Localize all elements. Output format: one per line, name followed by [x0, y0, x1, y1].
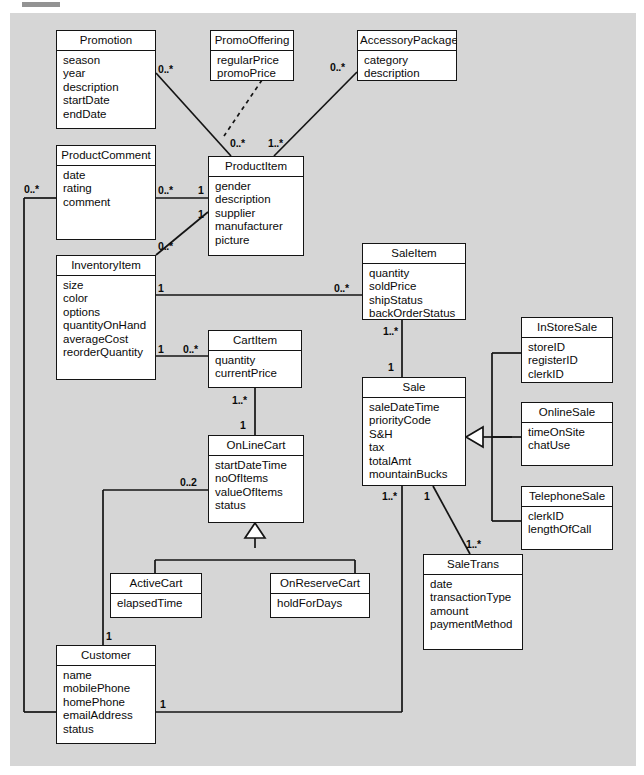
attribute: paymentMethod	[430, 618, 522, 631]
attribute: reorderQuantity	[63, 346, 155, 359]
multiplicity-customer-onlinecart: 1	[106, 630, 112, 642]
class-promotion-title: Promotion	[57, 31, 155, 51]
class-accessorypackage-attributes: category description	[358, 51, 456, 84]
attribute: season	[63, 54, 155, 67]
multiplicity-saleitem-sale: 1..*	[383, 325, 398, 337]
attribute: year	[63, 67, 155, 80]
attribute: tax	[369, 441, 465, 454]
attribute: transactionType	[430, 591, 522, 604]
attribute: mobilePhone	[63, 682, 155, 695]
class-saletrans-title: SaleTrans	[424, 555, 522, 575]
attribute: date	[430, 578, 522, 591]
attribute: gender	[215, 180, 303, 193]
attribute: mountainBucks	[369, 468, 465, 481]
attribute: currentPrice	[215, 367, 301, 380]
class-cartitem[interactable]: CartItem quantity currentPrice	[208, 330, 302, 388]
class-sale-title: Sale	[363, 378, 465, 398]
attribute: rating	[63, 182, 155, 195]
attribute: chatUse	[528, 439, 612, 452]
multiplicity-productitem-productcomment: 1	[198, 184, 204, 196]
attribute: status	[63, 723, 155, 736]
class-telephonesale-title: TelephoneSale	[522, 487, 612, 507]
class-accessorypackage[interactable]: AccessoryPackage category description	[357, 30, 457, 81]
multiplicity-saletrans-sale: 1..*	[466, 538, 481, 550]
attribute: clerkID	[528, 368, 612, 381]
class-productcomment[interactable]: ProductComment date rating comment	[56, 145, 156, 240]
multiplicity-cartitem-inventoryitem: 0..*	[183, 343, 198, 355]
class-promooffering[interactable]: PromoOffering regularPrice promoPrice	[210, 30, 294, 81]
class-telephonesale-attributes: clerkID lengthOfCall	[522, 507, 612, 540]
class-customer-title: Customer	[57, 646, 155, 666]
class-productcomment-title: ProductComment	[57, 146, 155, 166]
attribute: picture	[215, 234, 303, 247]
attribute: lengthOfCall	[528, 523, 612, 536]
class-sale[interactable]: Sale saleDateTime priorityCode S&H tax t…	[362, 377, 466, 486]
class-inventoryitem[interactable]: InventoryItem size color options quantit…	[56, 255, 156, 380]
multiplicity-sale-saletrans: 1	[424, 490, 430, 502]
multiplicity-inventoryitem-saleitem: 1	[158, 282, 164, 294]
multiplicity-sale-customer: 1..*	[382, 490, 397, 502]
attribute: homePhone	[63, 696, 155, 709]
multiplicity-onlinecart-cartitem: 1	[240, 419, 246, 431]
attribute: timeOnSite	[528, 426, 612, 439]
class-saletrans[interactable]: SaleTrans date transactionType amount pa…	[423, 554, 523, 650]
attribute: amount	[430, 605, 522, 618]
attribute: date	[63, 169, 155, 182]
attribute: totalAmt	[369, 455, 465, 468]
class-onlinecart-attributes: startDateTime noOfItems valueOfItems sta…	[209, 456, 303, 516]
class-inventoryitem-title: InventoryItem	[57, 256, 155, 276]
class-accessorypackage-title: AccessoryPackage	[358, 31, 456, 51]
attribute: clerkID	[528, 510, 612, 523]
class-promotion[interactable]: Promotion season year description startD…	[56, 30, 156, 129]
multiplicity-productitem-accessorypackage: 1..*	[268, 137, 283, 149]
multiplicity-sale-saleitem: 1	[388, 361, 394, 373]
attribute: storeID	[528, 341, 612, 354]
class-productitem[interactable]: ProductItem gender description supplier …	[208, 156, 304, 256]
attribute: size	[63, 279, 155, 292]
class-saleitem-title: SaleItem	[363, 244, 465, 264]
class-promotion-attributes: season year description startDate endDat…	[57, 51, 155, 124]
class-promooffering-attributes: regularPrice promoPrice	[211, 51, 293, 84]
class-saleitem[interactable]: SaleItem quantity soldPrice shipStatus b…	[362, 243, 466, 320]
attribute: quantity	[215, 354, 301, 367]
class-instoresale[interactable]: InStoreSale storeID registerID clerkID	[521, 317, 613, 383]
multiplicity-promotion-productitem: 0..*	[158, 63, 173, 75]
class-activecart-title: ActiveCart	[111, 574, 201, 594]
attribute: priorityCode	[369, 414, 465, 427]
attribute: valueOfItems	[215, 486, 303, 499]
class-productitem-title: ProductItem	[209, 157, 303, 177]
attribute: regularPrice	[217, 54, 293, 67]
class-onlinesale-attributes: timeOnSite chatUse	[522, 423, 612, 456]
multiplicity-productcomment-productitem: 0..*	[158, 184, 173, 196]
class-onreservecart[interactable]: OnReserveCart holdForDays	[270, 573, 370, 618]
attribute: backOrderStatus	[369, 307, 465, 320]
attribute: description	[364, 67, 456, 80]
class-productitem-attributes: gender description supplier manufacturer…	[209, 177, 303, 250]
class-onlinesale-title: OnlineSale	[522, 403, 612, 423]
class-onreservecart-attributes: holdForDays	[271, 594, 369, 613]
class-onlinesale[interactable]: OnlineSale timeOnSite chatUse	[521, 402, 613, 466]
class-onreservecart-title: OnReserveCart	[271, 574, 369, 594]
class-sale-attributes: saleDateTime priorityCode S&H tax totalA…	[363, 398, 465, 484]
attribute: manufacturer	[215, 220, 303, 233]
attribute: comment	[63, 196, 155, 209]
class-customer[interactable]: Customer name mobilePhone homePhone emai…	[56, 645, 156, 744]
attribute: options	[63, 306, 155, 319]
attribute: shipStatus	[369, 294, 465, 307]
attribute: description	[215, 193, 303, 206]
attribute: description	[63, 81, 155, 94]
multiplicity-productitem-inventoryitem: 1	[198, 208, 204, 220]
class-telephonesale[interactable]: TelephoneSale clerkID lengthOfCall	[521, 486, 613, 550]
attribute: quantity	[369, 267, 465, 280]
multiplicity-accessorypackage-productitem: 0..*	[330, 61, 345, 73]
multiplicity-inventoryitem-productitem: 0..*	[158, 240, 173, 252]
multiplicity-productcomment-customer: 0..*	[24, 183, 39, 195]
class-cartitem-attributes: quantity currentPrice	[209, 351, 301, 384]
multiplicity-inventoryitem-cartitem: 1	[158, 343, 164, 355]
attribute: soldPrice	[369, 280, 465, 293]
multiplicity-onlinecart-customer: 0..2	[180, 476, 197, 488]
class-activecart[interactable]: ActiveCart elapsedTime	[110, 573, 202, 618]
page-artifact-mark	[22, 2, 60, 7]
attribute: promoPrice	[217, 67, 293, 80]
class-onlinecart[interactable]: OnLineCart startDateTime noOfItems value…	[208, 435, 304, 523]
